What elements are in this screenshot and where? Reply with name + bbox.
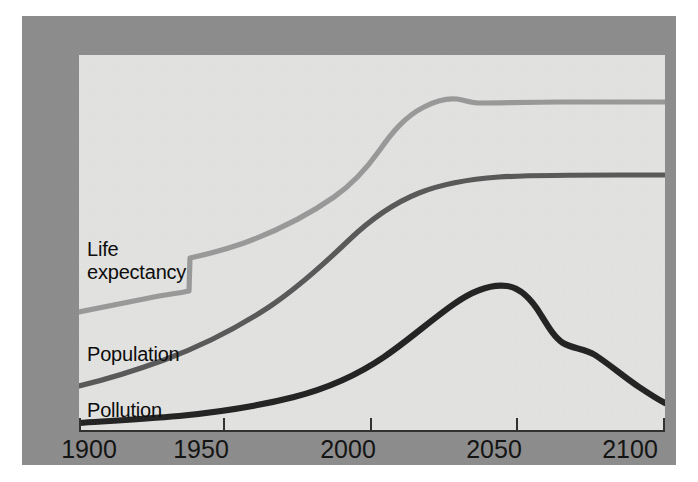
x-tick-2100 [663,418,665,431]
x-axis-label-2100: 2100 [602,435,658,464]
x-tick-1950 [223,418,225,431]
series-label-life-expectancy: Life expectancy [87,238,186,284]
plot-area: Life expectancy Population Pollution [79,55,665,432]
series-label-pollution: Pollution [87,399,162,422]
series-label-population: Population [87,343,180,366]
x-tick-1900 [79,418,81,431]
x-tick-2050 [516,418,518,431]
x-axis-label-1950: 1950 [173,435,229,464]
figure-panel: Life expectancy Population Pollution 190… [22,16,676,465]
figure-page: Life expectancy Population Pollution 190… [0,0,698,482]
x-tick-2000 [370,418,372,431]
x-axis-line [79,430,665,432]
x-axis-label-2050: 2050 [466,435,522,464]
x-axis-label-1900: 1900 [61,435,117,464]
x-axis-label-2000: 2000 [320,435,376,464]
